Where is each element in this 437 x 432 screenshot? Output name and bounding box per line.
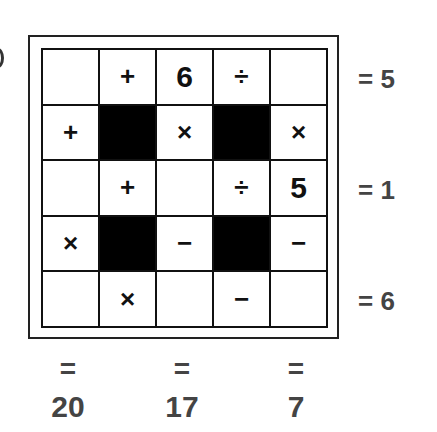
- operator-cell: −: [270, 216, 327, 272]
- empty-answer-cell[interactable]: [42, 160, 99, 216]
- blocked-cell: [213, 105, 270, 161]
- operator-cell: ×: [156, 105, 213, 161]
- empty-answer-cell[interactable]: [42, 49, 99, 105]
- blocked-cell: [99, 216, 156, 272]
- operator-cell: ÷: [213, 49, 270, 105]
- col-5-result: = 7: [266, 355, 326, 425]
- blocked-cell: [213, 216, 270, 272]
- col-1-value: 20: [38, 389, 98, 425]
- col-3-result: = 17: [152, 355, 212, 425]
- operator-cell: +: [99, 49, 156, 105]
- operator-cell: +: [42, 105, 99, 161]
- row-5-result: = 6: [358, 286, 395, 316]
- empty-answer-cell[interactable]: [42, 271, 99, 327]
- page-edge-mark: [0, 48, 4, 68]
- empty-answer-cell[interactable]: [156, 160, 213, 216]
- operator-cell: +: [99, 160, 156, 216]
- operator-cell: −: [156, 216, 213, 272]
- operator-cell: ×: [270, 105, 327, 161]
- col-5-equals: =: [266, 355, 326, 383]
- operator-cell: ×: [99, 271, 156, 327]
- col-1-equals: =: [38, 355, 98, 383]
- col-3-value: 17: [152, 389, 212, 425]
- row-1-result: = 5: [358, 64, 395, 94]
- blocked-cell: [99, 105, 156, 161]
- row-3-result: = 1: [358, 175, 395, 205]
- puzzle-grid: +6÷+××+÷5×−−×−: [41, 48, 328, 328]
- empty-answer-cell[interactable]: [156, 271, 213, 327]
- operator-cell: ×: [42, 216, 99, 272]
- empty-answer-cell[interactable]: [270, 49, 327, 105]
- col-5-value: 7: [266, 389, 326, 425]
- operator-cell: −: [213, 271, 270, 327]
- col-3-equals: =: [152, 355, 212, 383]
- empty-answer-cell[interactable]: [270, 271, 327, 327]
- given-number-cell: 6: [156, 49, 213, 105]
- given-number-cell: 5: [270, 160, 327, 216]
- operator-cell: ÷: [213, 160, 270, 216]
- col-1-result: = 20: [38, 355, 98, 425]
